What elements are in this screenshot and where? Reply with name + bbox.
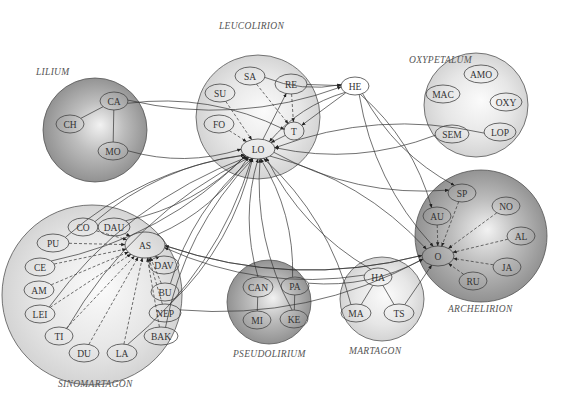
node-label: PU [47, 239, 59, 249]
node-label: BAK [151, 332, 171, 342]
network-diagram: LILIUM LEUCOLIRION OXYPETALUM ARCHELIRIO… [0, 0, 565, 400]
node-label: DAU [104, 223, 125, 233]
node-label: DU [77, 349, 91, 359]
group-sphere-martagon [340, 257, 424, 341]
node-label: LO [252, 145, 265, 155]
node-label: CE [34, 263, 46, 273]
node-label: HA [371, 273, 385, 283]
node-label: PA [289, 282, 300, 292]
edge-lo-to-o [270, 156, 426, 249]
node-label: AS [139, 241, 151, 251]
group-label-archelirion: ARCHELIRION [447, 304, 513, 314]
node-label: RE [285, 80, 297, 90]
group-label-leucolirion: LEUCOLIRION [218, 21, 284, 31]
node-label: AL [515, 232, 528, 242]
edge-re-to-he [307, 85, 341, 86]
node-label: O [435, 252, 442, 262]
node-label: NEP [156, 309, 174, 319]
node-label: MI [251, 316, 263, 326]
node-label: TI [55, 332, 64, 342]
node-label: T [291, 127, 297, 137]
group-spheres [2, 53, 547, 385]
node-label: FO [213, 120, 225, 130]
node-label: AM [31, 286, 47, 296]
node-label: LOP [491, 128, 509, 138]
node-label: MA [348, 309, 363, 319]
node-label: CO [76, 223, 89, 233]
edge-he-to-au [360, 94, 431, 207]
group-label-sinomartagon: SINOMARTAGON [58, 379, 133, 389]
node-label: LA [116, 349, 129, 359]
node-label: OXY [496, 98, 517, 108]
node-label: SP [457, 189, 468, 199]
node-label: RU [466, 277, 479, 287]
group-sphere-sinomartagon [2, 205, 182, 385]
node-label: SU [214, 89, 226, 99]
node-label: MO [105, 147, 120, 157]
node-label: KE [288, 315, 301, 325]
group-label-pseudolirium: PSEUDOLIRIUM [232, 349, 307, 359]
edge-bu-to-lo [170, 158, 252, 283]
node-label: CH [63, 120, 76, 130]
node-label: NO [499, 202, 513, 212]
node-label: CA [107, 97, 120, 107]
node-label: MAC [432, 90, 454, 100]
group-label-martagon: MARTAGON [348, 346, 402, 356]
node-label: BU [158, 288, 171, 298]
node-label: TS [393, 309, 404, 319]
node-label: CAN [248, 283, 268, 293]
node-he: HE [341, 77, 369, 95]
node-label: JA [502, 263, 513, 273]
node-label: LEI [33, 310, 48, 320]
group-label-lilium: LILIUM [35, 67, 70, 77]
node-label: SA [244, 72, 256, 82]
group-label-oxypetalum: OXYPETALUM [409, 55, 473, 65]
node-label: DAV [154, 261, 173, 271]
node-label: HE [349, 82, 362, 92]
group-sphere-lilium [43, 78, 147, 182]
node-label: SEM [442, 130, 462, 140]
node-label: AMO [470, 70, 492, 80]
node-label: AU [430, 212, 444, 222]
